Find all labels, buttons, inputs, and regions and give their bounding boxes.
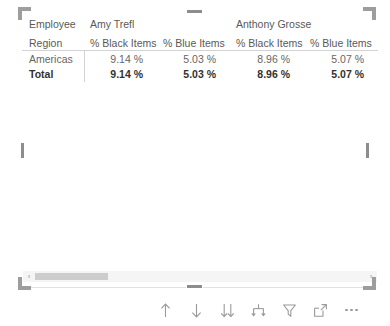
cell-americas-1[interactable]: 9.14 % [84,51,157,67]
measure-header-2[interactable]: % Blue Items [157,30,230,51]
row-header-americas[interactable]: Americas [22,51,84,67]
resize-handle-right[interactable] [365,142,370,159]
ellipsis-dots [345,309,358,312]
filter-icon[interactable] [274,296,305,324]
measure-header-3[interactable]: % Black Items [230,30,304,51]
measure-header-1[interactable]: % Black Items [84,30,157,51]
measure-header-4[interactable]: % Blue Items [304,30,378,51]
visual-hover-toolbar[interactable] [150,296,367,324]
resize-handle-left[interactable] [20,142,25,159]
cell-americas-3[interactable]: 8.96 % [230,51,304,67]
drill-down-icon[interactable] [181,296,212,324]
focus-mode-icon[interactable] [305,296,336,324]
measure-header-row: Region % Black Items % Blue Items % Blac… [22,30,378,51]
matrix-table[interactable]: Employee Amy Trefl Anthony Grosse Region… [22,11,378,82]
scroll-right-arrow-icon[interactable]: › [365,271,377,282]
scrollbar-track[interactable] [35,271,365,282]
resize-handle-bottom[interactable] [186,284,203,289]
expand-all-down-icon[interactable] [243,296,274,324]
cell-total-2[interactable]: 5.03 % [157,66,230,82]
cell-total-3[interactable]: 8.96 % [230,66,304,82]
expand-next-level-icon[interactable] [212,296,243,324]
scrollbar-thumb[interactable] [35,273,108,280]
resize-handle-top[interactable] [186,9,203,14]
table-row-total[interactable]: Total 9.14 % 5.03 % 8.96 % 5.07 % [22,66,378,82]
horizontal-scrollbar[interactable]: ‹ › [23,271,377,282]
matrix-visual[interactable]: Employee Amy Trefl Anthony Grosse Region… [22,11,378,287]
drill-up-icon[interactable] [150,296,181,324]
column-group-amy-trefl[interactable]: Amy Trefl [84,11,230,30]
corner-header-bottom: Region [22,30,84,51]
scroll-left-arrow-icon[interactable]: ‹ [23,271,35,282]
corner-header-top: Employee [22,11,84,30]
row-header-total[interactable]: Total [22,66,84,82]
cell-americas-4[interactable]: 5.07 % [304,51,378,67]
cell-total-4[interactable]: 5.07 % [304,66,378,82]
cell-total-1[interactable]: 9.14 % [84,66,157,82]
column-group-anthony-grosse[interactable]: Anthony Grosse [230,11,378,30]
table-row[interactable]: Americas 9.14 % 5.03 % 8.96 % 5.07 % [22,51,378,67]
cell-americas-2[interactable]: 5.03 % [157,51,230,67]
more-options-icon[interactable] [336,296,367,324]
